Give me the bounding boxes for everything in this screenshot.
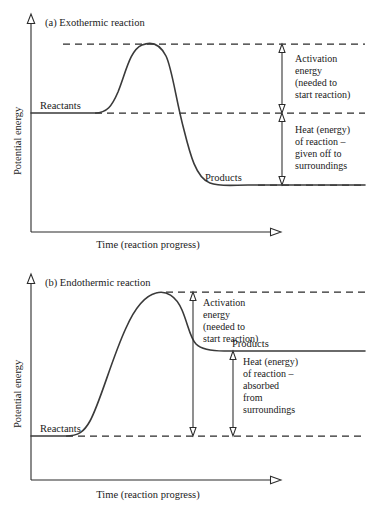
heat-of-reaction-arrow-exothermic (279, 113, 285, 185)
heat-line-3: absorbed (243, 380, 279, 391)
figure-page: (a) Exothermic reaction Potential energy… (0, 0, 373, 520)
activation-line-2: energy (203, 309, 230, 320)
heat-line-4: surroundings (295, 160, 347, 171)
activation-line-4: start reaction) (203, 333, 258, 345)
endothermic-chart-svg: (b) Endothermic reaction Potential energ… (0, 258, 373, 520)
y-axis-label-exothermic: Potential energy (12, 106, 23, 175)
heat-line-1: Heat (energy) (243, 356, 298, 368)
activation-energy-text-exothermic: Activation energy (needed to start react… (295, 53, 350, 101)
chart-panel-endothermic: (b) Endothermic reaction Potential energ… (0, 258, 373, 520)
y-axis-label-endothermic: Potential energy (12, 359, 23, 428)
x-axis-exothermic (31, 228, 281, 235)
heat-line-3: given off to (295, 148, 341, 159)
activation-line-1: Activation (295, 53, 337, 64)
heat-of-reaction-text-exothermic: Heat (energy) of reaction – given off to… (295, 124, 350, 171)
activation-line-4: start reaction) (295, 89, 350, 101)
reaction-curve-endothermic (31, 292, 365, 436)
x-axis-label-endothermic: Time (reaction progress) (96, 489, 200, 501)
panel-title-exothermic: (a) Exothermic reaction (45, 17, 145, 29)
exothermic-chart-svg: (a) Exothermic reaction Potential energy… (0, 0, 373, 258)
reactants-label-endothermic: Reactants (40, 423, 81, 434)
activation-energy-arrow-endothermic (190, 292, 196, 436)
products-label-exothermic: Products (205, 172, 242, 183)
x-axis-label-exothermic: Time (reaction progress) (96, 239, 200, 251)
panel-title-endothermic: (b) Endothermic reaction (45, 277, 151, 289)
activation-energy-text-endothermic: Activation energy (needed to start react… (203, 297, 258, 345)
activation-line-3: (needed to (203, 321, 245, 333)
heat-line-4: from (243, 392, 263, 403)
activation-energy-arrow-exothermic (279, 44, 285, 113)
x-axis-endothermic (31, 476, 281, 483)
heat-line-5: surroundings (243, 404, 295, 415)
heat-line-2: of reaction – (243, 368, 295, 379)
y-axis-endothermic (27, 274, 34, 480)
heat-line-1: Heat (energy) (295, 124, 350, 136)
activation-line-1: Activation (203, 297, 245, 308)
heat-of-reaction-arrow-endothermic (230, 351, 236, 436)
activation-line-2: energy (295, 65, 322, 76)
activation-line-3: (needed to (295, 77, 337, 89)
chart-panel-exothermic: (a) Exothermic reaction Potential energy… (0, 0, 373, 258)
heat-of-reaction-text-endothermic: Heat (energy) of reaction – absorbed fro… (243, 356, 298, 415)
reactants-label-exothermic: Reactants (40, 100, 81, 111)
y-axis-exothermic (27, 14, 34, 232)
heat-line-2: of reaction – (295, 136, 347, 147)
